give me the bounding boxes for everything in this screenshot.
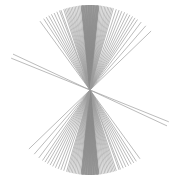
- starburst-graphic: [0, 0, 178, 179]
